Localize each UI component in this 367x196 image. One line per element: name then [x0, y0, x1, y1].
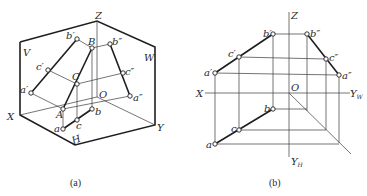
- axis-x-label: X: [6, 111, 15, 122]
- axis-z-label-b: Z: [290, 10, 299, 21]
- figure-b-orthographic: Z X O YW YH b′ b″ c′ c″ a′ a″ b c a (b): [195, 10, 364, 189]
- axis-yh-label: YH: [291, 156, 304, 168]
- projection-diagram: Z V W X Y O H b′ B b″ c′ C c″ a′ a″ A b …: [0, 0, 367, 196]
- label-a-prime: a′: [20, 84, 29, 95]
- label-b-prime-b: b′: [263, 28, 272, 39]
- label-a-double-prime-b: a″: [342, 70, 352, 81]
- label-C: C: [72, 71, 80, 82]
- axis-z-label: Z: [94, 10, 103, 21]
- caption-b: (b): [269, 177, 281, 189]
- label-B: B: [87, 36, 95, 47]
- axis-x-label-b: X: [195, 88, 204, 99]
- label-c-double-prime: c″: [125, 66, 135, 77]
- origin-o-label-b: O: [291, 82, 299, 93]
- label-a: a: [54, 123, 60, 134]
- label-c-prime: c′: [36, 61, 45, 72]
- label-a-b: a: [206, 139, 212, 150]
- labels-a: Z V W X Y O H b′ B b″ c′ C c″ a′ a″ A b …: [6, 10, 165, 146]
- label-a-double-prime: a″: [133, 92, 143, 103]
- label-c-b: c: [231, 123, 237, 134]
- label-c-prime-b: c′: [228, 48, 237, 59]
- label-A: A: [55, 109, 63, 120]
- label-b-double-prime-b: b″: [310, 28, 320, 39]
- label-c-double-prime-b: c″: [329, 52, 339, 63]
- figure-a-pictorial: Z V W X Y O H b′ B b″ c′ C c″ a′ a″ A b …: [6, 10, 165, 189]
- label-b-b: b: [264, 103, 270, 114]
- projector-lines-a: [31, 39, 130, 129]
- plane-v-label: V: [23, 47, 32, 58]
- axis-y-label: Y: [157, 122, 165, 133]
- plane-w-label: W: [144, 52, 155, 63]
- origin-o-label: O: [99, 89, 107, 100]
- caption-a: (a): [70, 177, 81, 189]
- line-projections-a: [31, 39, 130, 129]
- label-a-prime-b: a′: [204, 67, 213, 78]
- label-c: c: [76, 120, 82, 131]
- label-b-prime: b′: [66, 30, 75, 41]
- axis-yw-label: YW: [350, 88, 364, 100]
- label-b: b: [95, 106, 101, 117]
- label-b-double-prime: b″: [112, 36, 122, 47]
